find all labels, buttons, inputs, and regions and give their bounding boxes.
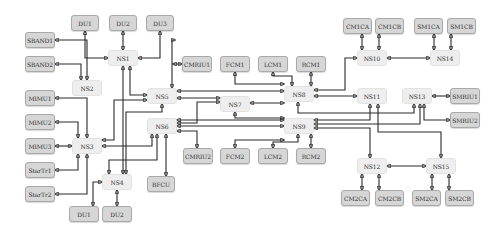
node-du2-bot: DU2	[102, 206, 132, 222]
node-smriu1: SMRIU1	[450, 88, 480, 104]
node-sm2ca: SM2CA	[412, 190, 441, 206]
node-label: SM1CA	[417, 23, 440, 30]
node-sband1: SBAND1	[25, 32, 55, 48]
link-fcm2-ns9	[235, 140, 284, 148]
node-ns10: NS10	[357, 50, 387, 66]
link-ns6-ns4	[109, 134, 157, 174]
node-ns14: NS14	[430, 50, 460, 66]
node-label: NS6	[156, 123, 169, 130]
link-ns3-mimu1	[55, 98, 87, 138]
node-mimu3: MIMU3	[25, 138, 55, 154]
node-label: NS11	[364, 93, 381, 100]
node-label: NS13	[409, 93, 426, 100]
link-ns4-du1_bot	[93, 182, 102, 206]
node-label: MIMU3	[28, 143, 51, 150]
node-startr2: StarTr2	[25, 186, 55, 202]
node-ns1: NS1	[108, 50, 138, 66]
node-ns12: NS12	[357, 158, 387, 174]
node-du1-top: DU1	[71, 15, 99, 31]
node-fcm1: FCM1	[220, 56, 250, 72]
node-du2-top: DU2	[109, 15, 137, 31]
node-cm2ca: CM2CA	[341, 190, 370, 206]
node-sm1cb: SM1CB	[447, 18, 476, 34]
node-label: CM1CA	[346, 23, 369, 30]
link-ns5-ns3	[102, 100, 147, 140]
node-label: StarTr1	[29, 167, 52, 174]
node-ns8: NS8	[284, 86, 314, 102]
node-du1-bot: DU1	[69, 206, 99, 222]
link-ns1-du1_top	[85, 31, 108, 58]
node-du3: DU3	[146, 15, 174, 31]
node-rcm2: RCM2	[296, 148, 326, 164]
node-fcm2: FCM2	[220, 148, 250, 164]
node-lcm2: LCM2	[258, 148, 288, 164]
link-ns9-ns11	[314, 104, 370, 120]
node-smriu2: SMRIU2	[450, 112, 480, 128]
node-mimu1: MIMU1	[25, 90, 55, 106]
link-ns3-startr1	[55, 154, 78, 170]
node-label: NS1	[117, 55, 130, 62]
node-label: CM1CB	[378, 23, 401, 30]
node-label: DU1	[77, 211, 90, 218]
node-ns6: NS6	[147, 118, 177, 134]
node-rcm1: RCM1	[296, 56, 326, 72]
node-label: NS2	[81, 85, 94, 92]
node-label: CM2CA	[344, 195, 367, 202]
node-lcm1: LCM1	[258, 56, 288, 72]
node-ns5: NS5	[147, 88, 177, 104]
link-ns1-du3	[138, 31, 160, 58]
node-sband2: SBAND2	[25, 56, 55, 72]
node-ns4: NS4	[102, 174, 132, 190]
node-label: SM2CB	[448, 195, 471, 202]
node-label: LCM2	[264, 153, 282, 160]
node-label: NS8	[293, 91, 306, 98]
node-label: DU1	[78, 20, 91, 27]
node-label: DU3	[153, 20, 166, 27]
link-ns2-sband2	[55, 64, 81, 80]
node-sm2cb: SM2CB	[445, 190, 474, 206]
node-label: MIMU1	[28, 95, 51, 102]
node-label: SBAND2	[27, 61, 53, 68]
node-label: RCM1	[302, 61, 321, 68]
node-ns15: NS15	[426, 158, 456, 174]
node-label: SBAND1	[27, 37, 53, 44]
node-label: SMRIU1	[452, 93, 477, 100]
link-lcm2-ns9	[273, 134, 298, 148]
link-fcm1-ns8	[235, 72, 284, 84]
node-label: NS15	[433, 163, 450, 170]
node-sm1ca: SM1CA	[414, 18, 443, 34]
node-label: FCM2	[226, 153, 244, 160]
link-ns3-mimu2	[55, 122, 78, 138]
node-bfcu: BFCU	[147, 176, 175, 192]
node-label: BFCU	[152, 181, 170, 188]
link-ns11-ns15	[378, 104, 441, 158]
node-label: NS5	[156, 93, 169, 100]
link-ns2-sband1	[55, 40, 87, 80]
node-ns13: NS13	[402, 88, 432, 104]
link-ns6-cmriu2	[177, 131, 197, 148]
node-label: RCM2	[302, 153, 321, 160]
node-cmriu2: CMRIU2	[183, 148, 213, 164]
node-label: NS14	[437, 55, 454, 62]
node-label: NS12	[364, 163, 381, 170]
node-label: StarTr2	[29, 191, 52, 198]
node-label: SM2CA	[415, 195, 438, 202]
node-ns3: NS3	[72, 138, 102, 154]
node-cmriu1: CMRIU1	[182, 56, 212, 72]
node-label: DU2	[116, 20, 129, 27]
node-label: SM1CB	[450, 23, 473, 30]
node-ns7: NS7	[220, 96, 250, 112]
link-ns8-ns13	[298, 102, 414, 113]
node-label: NS9	[293, 123, 306, 130]
node-label: MIMU2	[28, 119, 51, 126]
node-label: LCM1	[264, 61, 282, 68]
node-label: CMRIU1	[184, 61, 210, 68]
node-label: CMRIU2	[185, 153, 211, 160]
node-label: NS10	[364, 55, 381, 62]
node-mimu2: MIMU2	[25, 114, 55, 130]
link-ns3-startr2	[55, 154, 87, 194]
network-diagram: DU1DU2DU3SBAND1SBAND2NS1NS2MIMU1MIMU2MIM…	[0, 0, 501, 232]
node-label: NS4	[111, 179, 124, 186]
node-label: FCM1	[226, 61, 244, 68]
node-label: NS3	[81, 143, 94, 150]
